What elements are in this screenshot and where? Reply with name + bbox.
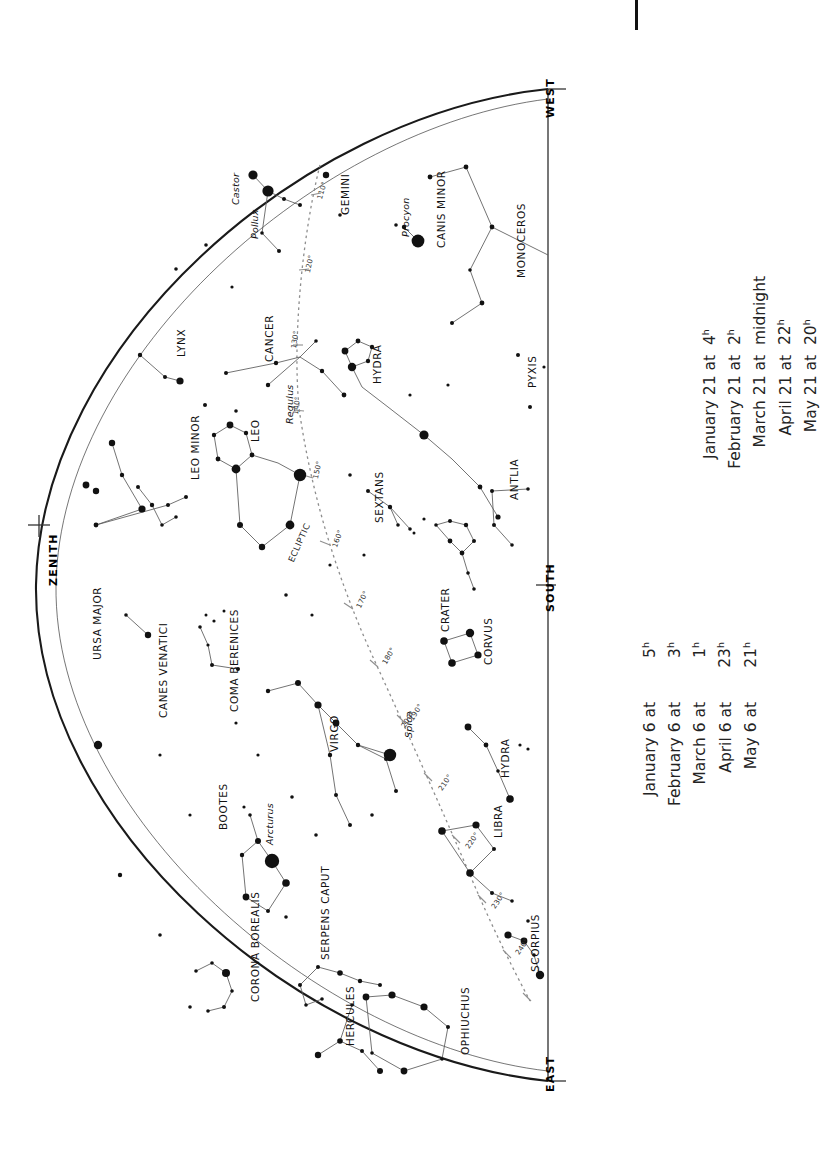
legend-row: February 6 at 3h <box>665 642 684 840</box>
legend-date: January 6 at <box>641 702 659 840</box>
star-label-arcturus: Arcturus <box>265 803 275 845</box>
constellation-serpens-caput: SERPENS CAPUT <box>320 866 331 960</box>
constellation-corona-borealis: CORONA BOREALIS <box>250 891 261 1002</box>
constellation-monoceros: MONOCEROS <box>516 203 527 278</box>
legend-date: February 21 at <box>726 355 744 525</box>
horizon-arc <box>36 89 548 1081</box>
constellation-ursa-major: URSA MAJOR <box>92 587 103 660</box>
constellation-canis-minor: CANIS MINOR <box>436 170 447 248</box>
constellation-bootes: BOOTES <box>218 783 229 830</box>
cardinal-ticks <box>28 89 566 1081</box>
constellation-hydra-1: HYDRA <box>372 345 383 384</box>
legend-date: February 6 at <box>666 702 684 840</box>
constellation-coma-berenices: COMA BERENICES <box>229 609 240 712</box>
constellation-hercules: HERCULES <box>345 986 356 1046</box>
legend-row: May 21 at 20h <box>801 249 820 525</box>
cardinal-east: EAST <box>545 1056 556 1092</box>
legend-row: May 6 at 21h <box>741 642 760 840</box>
legend-row: March 6 at 1h <box>690 642 709 840</box>
constellation-corvus: CORVUS <box>483 618 494 665</box>
star-label-pollux: Pollux <box>250 209 260 239</box>
constellation-antlia: ANTLIA <box>509 459 520 500</box>
star-procyon <box>412 235 425 248</box>
legend-hour: 2h <box>725 249 744 355</box>
legend-row: January 21 at 4h <box>700 249 719 525</box>
legend-hour: 21h <box>741 642 760 702</box>
cardinal-south: SOUTH <box>545 563 556 612</box>
sky-map <box>0 55 600 1115</box>
legend-hour: 20h <box>801 249 820 355</box>
constellation-canes-venatici: CANES VENATICI <box>158 623 169 718</box>
constellation-lynx: LYNX <box>176 329 187 357</box>
constellation-crater: CRATER <box>440 587 451 632</box>
constellation-leo-minor: LEO MINOR <box>190 415 201 480</box>
legend-hour: 4h <box>700 249 719 355</box>
legend-row: April 21 at 22h <box>775 249 794 525</box>
star-regulus <box>294 469 306 481</box>
legend-dates-21st: January 21 at 4h February 21 at 2h March… <box>700 249 822 525</box>
cardinal-zenith: ZENITH <box>48 533 59 586</box>
legend-dates-6th: January 6 at 5h February 6 at 3h March 6… <box>640 642 766 840</box>
legend-row: March 21 at midnight <box>750 249 769 525</box>
legend-hour: 3h <box>665 642 684 702</box>
star-castor <box>248 170 257 179</box>
constellation-pyxis: PYXIS <box>527 356 538 388</box>
top-registration-tick <box>635 0 638 30</box>
star-arcturus <box>265 854 279 868</box>
star-chart-page: WEST ZENITH SOUTH EAST Castor Pollux Pro… <box>0 0 822 1156</box>
star-label-procyon: Procyon <box>401 197 411 237</box>
legend-date: March 21 at <box>751 355 769 525</box>
star-pollux <box>262 185 273 196</box>
constellation-libra: LIBRA <box>493 805 504 838</box>
star-label-castor: Castor <box>231 173 241 205</box>
constellation-ophiuchus: OPHIUCHUS <box>460 987 471 1055</box>
constellation-hydra-2: HYDRA <box>500 739 511 778</box>
constellation-sextans: SEXTANS <box>374 471 385 523</box>
constellation-cancer: CANCER <box>264 315 275 362</box>
legend-date: April 6 at <box>717 702 735 840</box>
legend-date: April 21 at <box>777 355 795 525</box>
ecliptic-deg-140: 140° <box>292 396 301 415</box>
legend-hour: midnight <box>750 249 769 355</box>
legend-row: January 6 at 5h <box>640 642 659 840</box>
constellation-scorpius: SCORPIUS <box>530 914 541 972</box>
legend-row: February 21 at 2h <box>725 249 744 525</box>
constellation-leo: LEO <box>250 419 261 442</box>
legend-date: May 21 at <box>802 355 820 525</box>
constellation-virgo: VIRGO <box>329 715 340 752</box>
cardinal-west: WEST <box>545 78 556 118</box>
legend-hour: 23h <box>715 642 734 702</box>
ecliptic-deg-130: 130° <box>290 330 300 349</box>
legend-date: January 21 at <box>701 355 719 525</box>
legend-hour: 1h <box>690 642 709 702</box>
legend-date: March 6 at <box>691 702 709 840</box>
legend-row: April 6 at 23h <box>715 642 734 840</box>
legend-hour: 5h <box>640 642 659 702</box>
legend-date: May 6 at <box>742 702 760 840</box>
stars <box>83 165 546 1075</box>
constellation-gemini: GEMINI <box>340 174 351 215</box>
legend-hour: 22h <box>775 249 794 355</box>
